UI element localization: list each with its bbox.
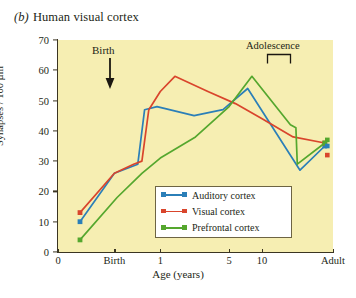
panel-title-text: Human visual cortex — [33, 10, 139, 24]
x-tick-mark — [262, 249, 263, 253]
y-tick-label: 50 — [39, 95, 50, 106]
x-tick-mark — [160, 249, 161, 253]
x-tick-label: 0 — [55, 255, 60, 266]
x-tick-mark — [114, 249, 115, 253]
y-tick-mark — [53, 70, 57, 71]
y-tick-mark — [53, 191, 57, 192]
y-tick-label: 30 — [39, 156, 50, 167]
legend-item[interactable]: Prefrontal cortex — [156, 220, 291, 236]
y-tick-mark — [53, 251, 57, 252]
x-tick-mark — [58, 249, 59, 253]
y-tick-label: 40 — [39, 125, 50, 136]
legend-swatch — [161, 190, 187, 200]
y-tick-label: 20 — [39, 186, 50, 197]
adolescence-annotation: Adolescence — [246, 40, 300, 51]
series-start-marker — [78, 219, 83, 224]
panel-title: (b)Human visual cortex — [14, 10, 139, 25]
legend: Auditory cortexVisual cortexPrefrontal c… — [155, 186, 292, 238]
x-tick-label: 10 — [257, 255, 268, 266]
legend-label: Auditory cortex — [192, 190, 256, 201]
panel-letter: (b) — [14, 10, 29, 24]
birth-arrow-icon — [98, 58, 128, 90]
adolescence-bracket-icon — [266, 53, 316, 67]
x-tick-label: Birth — [104, 255, 126, 266]
x-axis-label: Age (years) — [0, 268, 356, 280]
x-tick-label: 5 — [226, 255, 231, 266]
x-axis-label-text: Age (years) — [152, 268, 204, 280]
y-axis-label-text: Synapses / 100 µm3 — [0, 63, 5, 146]
y-tick-label: 10 — [39, 216, 50, 227]
legend-label: Prefrontal cortex — [192, 222, 259, 233]
legend-swatch — [161, 223, 187, 233]
y-tick-mark — [53, 100, 57, 101]
y-tick-mark — [53, 221, 57, 222]
x-tick-label: Adult — [321, 255, 345, 266]
legend-swatch — [161, 206, 187, 216]
x-axis-line — [57, 252, 334, 253]
adult-marker — [325, 138, 330, 143]
legend-item[interactable]: Auditory cortex — [156, 187, 291, 203]
adolescence-annotation-label: Adolescence — [246, 40, 300, 51]
legend-label: Visual cortex — [192, 206, 245, 217]
birth-annotation: Birth — [92, 44, 115, 56]
y-tick-mark — [53, 130, 57, 131]
y-tick-mark — [53, 161, 57, 162]
adult-marker — [325, 153, 330, 158]
figure-panel: (b)Human visual cortex 010203040506070 0… — [0, 0, 356, 298]
series-start-marker — [78, 210, 83, 215]
legend-item[interactable]: Visual cortex — [156, 203, 291, 219]
y-tick-label: 60 — [39, 65, 50, 76]
y-tick-label: 70 — [39, 35, 50, 46]
y-tick-mark — [53, 39, 57, 40]
x-tick-label: 1 — [158, 255, 163, 266]
x-tick-mark — [333, 249, 334, 253]
birth-annotation-label: Birth — [92, 44, 115, 56]
y-axis-line — [57, 39, 58, 253]
legend-rows: Auditory cortexVisual cortexPrefrontal c… — [156, 187, 291, 236]
y-axis-label: Synapses / 100 µm3 — [0, 63, 5, 146]
y-tick-label: 0 — [44, 247, 49, 258]
x-tick-mark — [229, 249, 230, 253]
series-start-marker — [78, 238, 83, 243]
adult-marker — [325, 144, 330, 149]
